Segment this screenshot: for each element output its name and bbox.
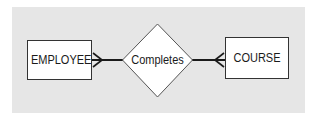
entity-employee-label: EMPLOYEE (31, 54, 88, 67)
relationship-completes-label: Completes (126, 54, 188, 67)
entity-course-label: COURSE (229, 52, 285, 65)
